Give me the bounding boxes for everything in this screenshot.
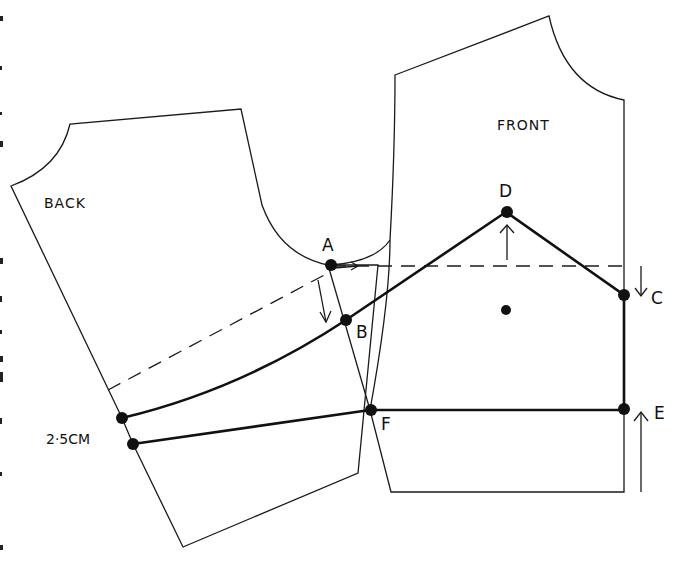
point-f [365,404,377,416]
label-e: E [654,403,665,423]
bust-point [501,305,511,315]
pattern-diagram: BACK FRONT A B C D E F 2·5CM [0,0,697,580]
armhole-curve [330,240,390,265]
diagonal-dashed-guide [108,272,330,390]
point-a [325,259,337,271]
arrow-d-up-icon [500,225,514,260]
waist-line-back [133,410,370,444]
label-f: F [381,414,391,434]
back-label: BACK [44,195,86,211]
points [116,206,630,450]
point-d [501,206,513,218]
labels: BACK FRONT A B C D E F 2·5CM [44,117,665,447]
back-piece [11,109,378,547]
point-e [618,403,630,415]
arrow-e-up-icon [634,412,648,492]
point-b [340,314,352,326]
front-label: FRONT [497,117,550,133]
label-c: C [651,288,663,308]
label-b: B [356,322,368,342]
measurement-label: 2·5CM [46,431,90,447]
arrow-a-to-b-icon [318,280,331,322]
point-c [618,289,630,301]
back-outline [11,109,378,547]
label-a: A [322,235,334,255]
front-piece [330,16,624,492]
label-d: D [499,181,512,201]
arrow-c-down-icon [635,266,647,296]
margin-marks [0,16,3,550]
front-outline [370,16,624,492]
back-lower-point [127,438,139,450]
back-upper-point [116,412,128,424]
